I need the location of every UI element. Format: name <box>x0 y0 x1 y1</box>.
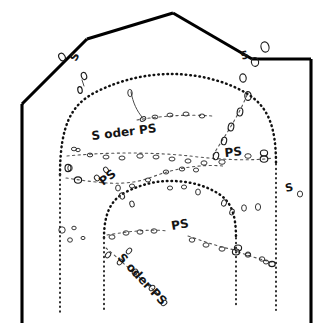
vault-section-drawing: S S S oder PS PS PS S PS S oder PS <box>0 0 331 323</box>
label-center-ps: PS <box>170 216 190 233</box>
label-right-ps: PS <box>224 144 243 160</box>
diagram-root: S S S oder PS PS PS S PS S oder PS <box>0 0 331 323</box>
canvas-background <box>0 0 331 323</box>
